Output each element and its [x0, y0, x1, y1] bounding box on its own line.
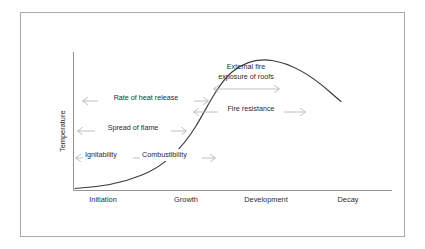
figure-root: Temperature Rate of heat release Spread …	[0, 0, 425, 249]
y-axis-label: Temperature	[58, 111, 67, 153]
annotation-ignitability-combustibility: Ignitability Combustibility	[76, 149, 216, 162]
annotation-fire-resistance: Fire resistance	[194, 103, 306, 116]
annotation-external-fire-exposure: External fire exposure of roofs	[214, 62, 280, 93]
external-fire-exposure-label-line2: exposure of roofs	[218, 72, 274, 81]
x-axis-label-initiation: Initiation	[89, 195, 117, 204]
x-axis-label-decay: Decay	[338, 195, 359, 204]
spread-of-flame-label: Spread of flame	[108, 123, 159, 132]
combustibility-label: Combustibility	[142, 150, 187, 159]
fire-development-diagram: Temperature Rate of heat release Spread …	[0, 0, 425, 249]
x-axis-label-growth: Growth	[174, 195, 198, 204]
fire-resistance-label: Fire resistance	[227, 104, 274, 113]
annotation-rate-of-heat-release: Rate of heat release	[83, 92, 209, 105]
rate-of-heat-release-label: Rate of heat release	[114, 93, 179, 102]
external-fire-exposure-label-line1: External fire	[227, 62, 265, 71]
ignitability-label: Ignitability	[85, 150, 117, 159]
x-axis-labels-group: Initiation Growth Development Decay	[89, 195, 359, 204]
x-axis-label-development: Development	[244, 195, 288, 204]
annotation-spread-of-flame: Spread of flame	[78, 122, 187, 135]
